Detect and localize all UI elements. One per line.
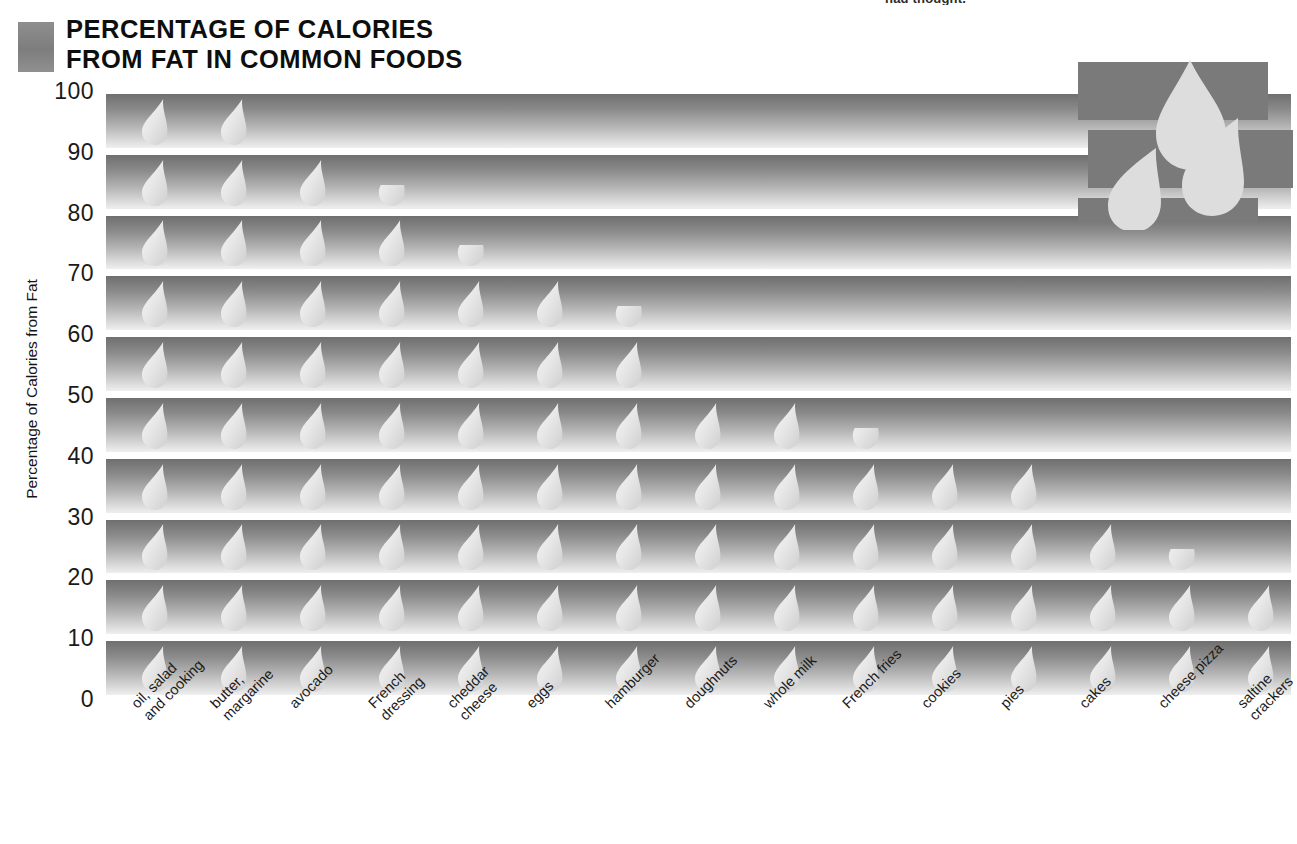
droplet-unit [1161,584,1201,632]
value-band-20 [106,580,1291,634]
y-axis-tick-30: 30 [4,504,94,531]
droplet-unit [608,463,648,511]
droplet-unit [1003,584,1043,632]
droplet-unit [292,159,332,207]
y-axis-tick-10: 10 [4,625,94,652]
droplet-unit [213,402,253,450]
droplet-unit [134,402,174,450]
droplet-unit [213,159,253,207]
droplet-unit [608,402,648,450]
droplet-half [845,428,885,450]
value-band-40 [106,459,1291,513]
droplet-unit [213,219,253,267]
band-droplets [106,459,1291,513]
droplet-unit [608,584,648,632]
droplet-unit [1082,584,1122,632]
y-axis-tick-60: 60 [4,321,94,348]
title-line-2: FROM FAT IN COMMON FOODS [66,44,766,74]
droplet-unit [529,402,569,450]
droplet-unit [450,341,490,389]
droplet-unit [608,523,648,571]
droplet-unit [292,219,332,267]
droplet-unit [213,584,253,632]
droplet-unit [529,341,569,389]
value-band-50 [106,398,1291,452]
droplet-unit [687,402,727,450]
droplet-unit [529,280,569,328]
droplet-unit [134,98,174,146]
value-band-30 [106,520,1291,574]
droplet-unit [371,280,411,328]
droplet-unit [292,402,332,450]
droplet-unit [845,584,885,632]
droplet-unit [529,523,569,571]
droplet-unit [371,402,411,450]
droplet-unit [608,341,648,389]
droplet-unit [450,584,490,632]
band-droplets [106,580,1291,634]
droplet-unit [292,280,332,328]
droplet-unit [845,463,885,511]
y-axis-tick-40: 40 [4,443,94,470]
droplet-unit [766,584,806,632]
droplet-half [608,306,648,328]
logo-droplet-shapes [1078,52,1297,230]
droplet-unit [134,584,174,632]
droplet-unit [134,159,174,207]
three-droplets-logo [1078,62,1297,222]
droplet-unit [371,463,411,511]
droplet-unit [529,584,569,632]
droplet-unit [213,523,253,571]
droplet-unit [292,463,332,511]
droplet-unit [134,280,174,328]
y-axis-tick-20: 20 [4,564,94,591]
droplet-unit [213,463,253,511]
droplet-unit [845,523,885,571]
droplet-unit [687,523,727,571]
droplet-unit [450,463,490,511]
value-band-60 [106,337,1291,391]
chart-page: PERCENTAGE OF CALORIES FROM FAT IN COMMO… [0,0,1297,844]
y-axis-tick-90: 90 [4,139,94,166]
droplet-unit [371,584,411,632]
droplet-half [1161,549,1201,571]
droplet-unit [134,341,174,389]
band-droplets [106,398,1291,452]
droplet-unit [687,463,727,511]
droplet-unit [292,584,332,632]
droplet-unit [450,523,490,571]
y-axis-tick-50: 50 [4,382,94,409]
droplet-unit [924,463,964,511]
droplet-unit [213,341,253,389]
droplet-unit [766,523,806,571]
droplet-unit [213,98,253,146]
droplet-unit [766,402,806,450]
y-axis: 1009080706050403020100 [0,0,106,704]
droplet-unit [450,280,490,328]
droplet-half [371,185,411,207]
title-line-1: PERCENTAGE OF CALORIES [66,14,766,44]
droplet-unit [1003,523,1043,571]
droplet-unit [134,523,174,571]
band-droplets [106,276,1291,330]
droplet-half [450,245,490,267]
droplet-unit [924,584,964,632]
droplet-unit [371,341,411,389]
droplet-unit [371,219,411,267]
y-axis-tick-80: 80 [4,200,94,227]
droplet-unit [766,463,806,511]
droplet-unit [924,523,964,571]
page-title: PERCENTAGE OF CALORIES FROM FAT IN COMMO… [66,14,766,74]
droplet-unit [1003,645,1043,693]
droplet-unit [292,341,332,389]
y-axis-tick-70: 70 [4,260,94,287]
droplet-unit [450,402,490,450]
y-axis-title: Percentage of Calories from Fat [23,109,41,669]
droplet-unit [371,523,411,571]
x-axis-labels: oil, salad and cookingbutter, margarinea… [0,700,1297,844]
droplet-unit [529,463,569,511]
droplet-unit [213,280,253,328]
droplet-unit [134,219,174,267]
value-band-70 [106,276,1291,330]
y-axis-tick-100: 100 [4,78,94,105]
